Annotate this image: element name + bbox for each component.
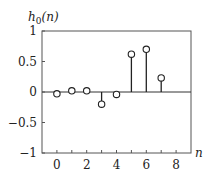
stem-marker-circle-icon	[69, 88, 75, 94]
y-tick-label: −0.5	[8, 116, 37, 130]
stem-plot: h0(n) 10.50−0.5−1 02468 n	[0, 0, 205, 184]
stem-marker-circle-icon	[98, 101, 104, 107]
y-tick-label: 0.5	[18, 55, 37, 69]
stem-marker-circle-icon	[158, 75, 164, 81]
x-axis-label: n	[195, 146, 203, 160]
y-tick-label: −1	[19, 146, 37, 160]
x-tick-label: 0	[53, 158, 61, 172]
stem-marker-circle-icon	[113, 91, 119, 97]
x-tick-label: 4	[113, 158, 121, 172]
x-tick-label: 6	[142, 158, 150, 172]
y-tick-label: 1	[29, 24, 37, 38]
x-tick-label: 2	[83, 158, 91, 172]
stem-marker-circle-icon	[84, 88, 90, 94]
stem-marker-circle-icon	[54, 91, 60, 97]
stem-marker-circle-icon	[128, 51, 134, 57]
stem-series	[54, 46, 165, 107]
stem-marker-circle-icon	[143, 46, 149, 52]
y-tick-label: 0	[29, 85, 37, 99]
y-axis-ticks: 10.50−0.5−1	[8, 24, 45, 160]
x-tick-label: 8	[172, 158, 180, 172]
